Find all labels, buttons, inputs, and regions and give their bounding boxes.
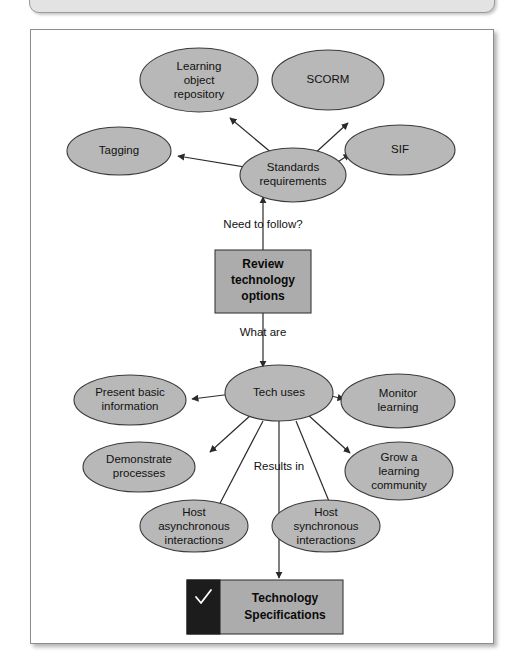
node-label-line2: processes bbox=[113, 467, 166, 479]
node-label-line1: Host bbox=[314, 506, 338, 518]
node-label-line1: Demonstrate bbox=[106, 453, 172, 465]
node-host-asynchronous-interactions[interactable]: Host asynchronous interactions bbox=[140, 500, 248, 552]
node-label-line2: requirements bbox=[259, 175, 326, 187]
node-learning-object-repository[interactable]: Learning object repository bbox=[140, 48, 258, 112]
node-label-line2: information bbox=[102, 400, 159, 412]
node-label-line1: Host bbox=[182, 506, 206, 518]
node-label-line3: interactions bbox=[165, 534, 224, 546]
box-label-line1: Review bbox=[242, 257, 284, 271]
terminal-box-technology-specifications[interactable]: Technology Specifications bbox=[187, 580, 343, 634]
box-label-line3: options bbox=[241, 289, 285, 303]
node-label-line1: SCORM bbox=[307, 73, 350, 85]
node-label-line1: Tagging bbox=[99, 144, 139, 156]
edge-tech-to-grow-learning-community bbox=[307, 414, 350, 453]
node-present-basic-information[interactable]: Present basic information bbox=[74, 375, 186, 425]
edge-label-results-in: Results in bbox=[254, 460, 305, 472]
edge-standards-to-scorm bbox=[313, 123, 348, 155]
node-label-line2: learning bbox=[378, 401, 419, 413]
node-scorm[interactable]: SCORM bbox=[272, 50, 384, 110]
edge-standards-to-repository bbox=[230, 118, 273, 154]
node-label-line2: learning bbox=[379, 465, 420, 477]
node-grow-a-learning-community[interactable]: Grow a learning community bbox=[345, 442, 453, 500]
status-swatch bbox=[187, 580, 220, 634]
edge-label-need-to-follow: Need to follow? bbox=[223, 218, 302, 230]
node-standards-requirements[interactable]: Standards requirements bbox=[240, 148, 346, 202]
node-tagging[interactable]: Tagging bbox=[67, 127, 171, 175]
box-label-line2: technology bbox=[231, 273, 295, 287]
node-label-line1: Learning bbox=[177, 60, 222, 72]
node-label-line2: object bbox=[184, 74, 215, 86]
node-label-line1: Tech uses bbox=[253, 386, 305, 398]
node-label-line2: asynchronous bbox=[158, 520, 230, 532]
diagram-stage: Learning object repository SCORM Tagging… bbox=[0, 0, 526, 670]
node-tech-uses[interactable]: Tech uses bbox=[225, 365, 333, 421]
edge-label-what-are: What are bbox=[240, 326, 287, 338]
node-label-line2: synchronous bbox=[293, 520, 358, 532]
edge-tech-to-demonstrate-processes bbox=[210, 414, 252, 452]
node-monitor-learning[interactable]: Monitor learning bbox=[341, 374, 455, 428]
node-label-line1: Grow a bbox=[380, 451, 418, 463]
top-cutoff-panel bbox=[29, 0, 495, 13]
node-label-line1: Standards bbox=[267, 161, 320, 173]
concept-map-svg: Learning object repository SCORM Tagging… bbox=[30, 29, 494, 644]
node-label-line1: Present basic bbox=[95, 386, 165, 398]
node-sif[interactable]: SIF bbox=[345, 125, 455, 175]
node-label-line3: repository bbox=[174, 88, 225, 100]
node-label-line1: Monitor bbox=[379, 387, 418, 399]
node-demonstrate-processes[interactable]: Demonstrate processes bbox=[83, 442, 195, 492]
terminal-label-line1: Technology bbox=[252, 591, 319, 605]
node-label-line3: community bbox=[371, 479, 427, 491]
node-label-line1: SIF bbox=[391, 143, 409, 155]
terminal-label-line2: Specifications bbox=[244, 608, 326, 622]
node-label-line3: interactions bbox=[297, 534, 356, 546]
node-host-synchronous-interactions[interactable]: Host synchronous interactions bbox=[272, 500, 380, 552]
process-box-review-technology-options[interactable]: Review technology options bbox=[215, 250, 311, 313]
